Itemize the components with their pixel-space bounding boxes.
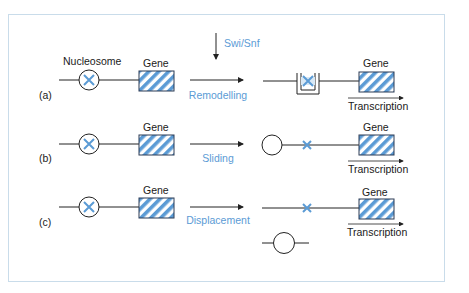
remodelled-nucleosome-icon — [297, 73, 319, 94]
row-tag: (c) — [39, 216, 51, 228]
process-label: Remodelling — [189, 89, 248, 101]
gene-label: Gene — [143, 121, 169, 133]
row-a: (a) Nucleosome Gene Remodelling Gene Tra… — [39, 55, 408, 112]
gene-box-icon — [359, 135, 394, 155]
gene-label: Gene — [363, 121, 389, 133]
gene-box-icon — [139, 135, 174, 155]
swi-snf-arrow: Swi/Snf — [216, 33, 260, 59]
transcription-label: Transcription — [347, 226, 407, 238]
process-label: Sliding — [202, 152, 234, 164]
transcription-label: Transcription — [348, 100, 408, 112]
gene-box-icon — [359, 199, 394, 219]
chromatin-remodelling-diagram: Swi/Snf (a) Nucleosome Gene Remodelling … — [0, 0, 469, 293]
row-tag: (a) — [39, 89, 52, 101]
row-tag: (b) — [39, 152, 52, 164]
row-c: (c) Gene Displacement Gene Transcription — [39, 184, 407, 254]
nucleosome-icon — [79, 134, 99, 154]
gene-box-icon — [139, 198, 174, 218]
transcription-label: Transcription — [348, 163, 408, 175]
nucleosome-label: Nucleosome — [63, 55, 122, 67]
row-b: (b) Gene Sliding Gene Transcription — [39, 121, 408, 175]
nucleosome-icon — [79, 197, 99, 217]
nucleosome-icon — [79, 70, 99, 90]
gene-box-icon — [139, 71, 174, 91]
displaced-nucleosome-icon — [262, 233, 309, 254]
gene-label: Gene — [143, 57, 169, 69]
gene-label: Gene — [143, 184, 169, 196]
free-nucleosome-icon — [262, 135, 282, 155]
enzyme-label: Swi/Snf — [224, 37, 260, 49]
process-label: Displacement — [186, 214, 250, 226]
gene-label: Gene — [363, 57, 389, 69]
gene-box-icon — [359, 72, 394, 92]
gene-label: Gene — [362, 186, 388, 198]
